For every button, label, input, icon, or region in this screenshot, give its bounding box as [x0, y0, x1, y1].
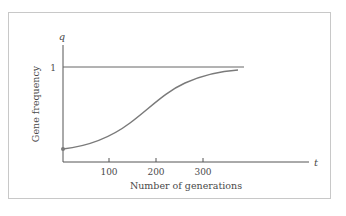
x-axis-label: Number of generations: [130, 180, 242, 191]
start-point: [61, 147, 65, 151]
gene-frequency-curve: [63, 70, 238, 149]
x-tick-label-300: 300: [194, 167, 211, 177]
chart: q 1 t 100 200 300 Number of generations …: [0, 0, 346, 216]
x-tick-label-200: 200: [147, 167, 164, 177]
y-tick-label-1: 1: [50, 63, 56, 73]
x-axis-symbol: t: [314, 157, 319, 168]
y-axis-label: Gene frequency: [30, 65, 41, 142]
x-tick-label-100: 100: [100, 167, 117, 177]
y-axis-symbol: q: [59, 31, 65, 42]
